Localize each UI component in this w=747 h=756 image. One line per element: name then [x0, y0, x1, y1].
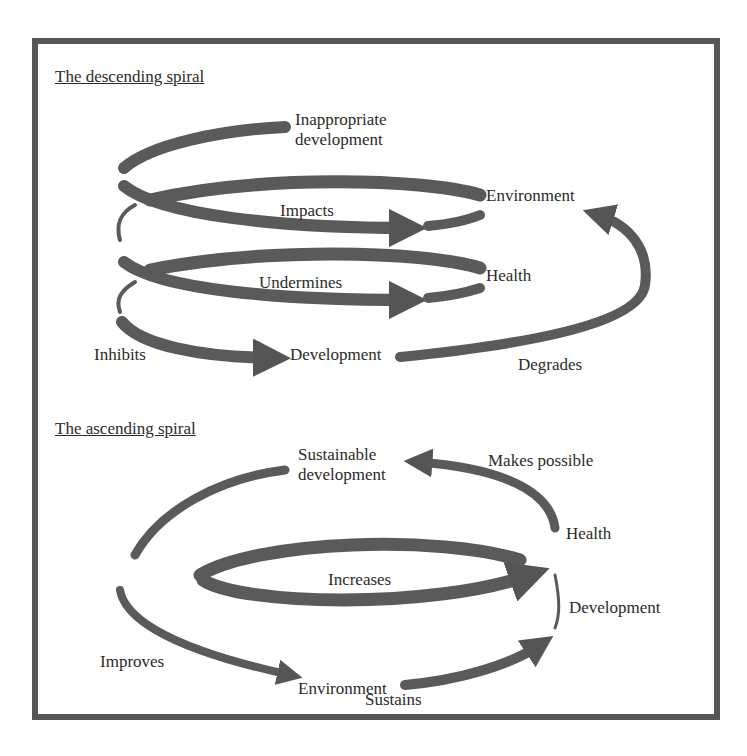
arrow-loop-left-2: [118, 282, 135, 312]
arrow-right-outer: [555, 575, 559, 628]
label-inappropriate: Inappropriate development: [295, 110, 387, 150]
label-health-asc: Health: [566, 524, 611, 544]
label-inhibits: Inhibits: [94, 345, 146, 365]
arrow-loop-left-1: [118, 205, 135, 240]
label-development-desc: Development: [290, 345, 382, 365]
label-sustains-text: Sustains: [365, 690, 422, 710]
arrow-sustains: [405, 645, 540, 685]
label-undermines: Undermines: [259, 273, 342, 293]
arrow-inappropriate-to-loop: [124, 127, 285, 168]
arrow-to-sustainable: [135, 470, 285, 555]
label-development-asc: Development: [569, 598, 661, 618]
arrow-health-lower: [428, 288, 480, 298]
arrow-loop1-top: [150, 182, 480, 200]
ascending-title: The ascending spiral: [55, 419, 196, 439]
label-improves: Improves: [100, 652, 164, 672]
label-sustainable-line1: Sustainable: [298, 445, 386, 465]
label-degrades: Degrades: [518, 355, 582, 375]
arrow-makes-possible: [418, 462, 555, 528]
label-health-desc: Health: [486, 266, 531, 286]
arrow-degrades: [400, 215, 646, 357]
label-sustainable: Sustainable development: [298, 445, 386, 485]
arrow-loop2-top: [150, 254, 480, 270]
label-impacts: Impacts: [280, 201, 334, 221]
label-makes-possible: Makes possible: [488, 451, 593, 471]
label-increases: Increases: [328, 570, 391, 590]
label-environment-desc: Environment: [486, 186, 575, 206]
arrow-env-lower: [428, 215, 480, 226]
label-inappropriate-line1: Inappropriate: [295, 110, 387, 130]
label-inappropriate-line2: development: [295, 130, 387, 150]
label-sustainable-line2: development: [298, 465, 386, 485]
descending-title: The descending spiral: [55, 67, 204, 87]
